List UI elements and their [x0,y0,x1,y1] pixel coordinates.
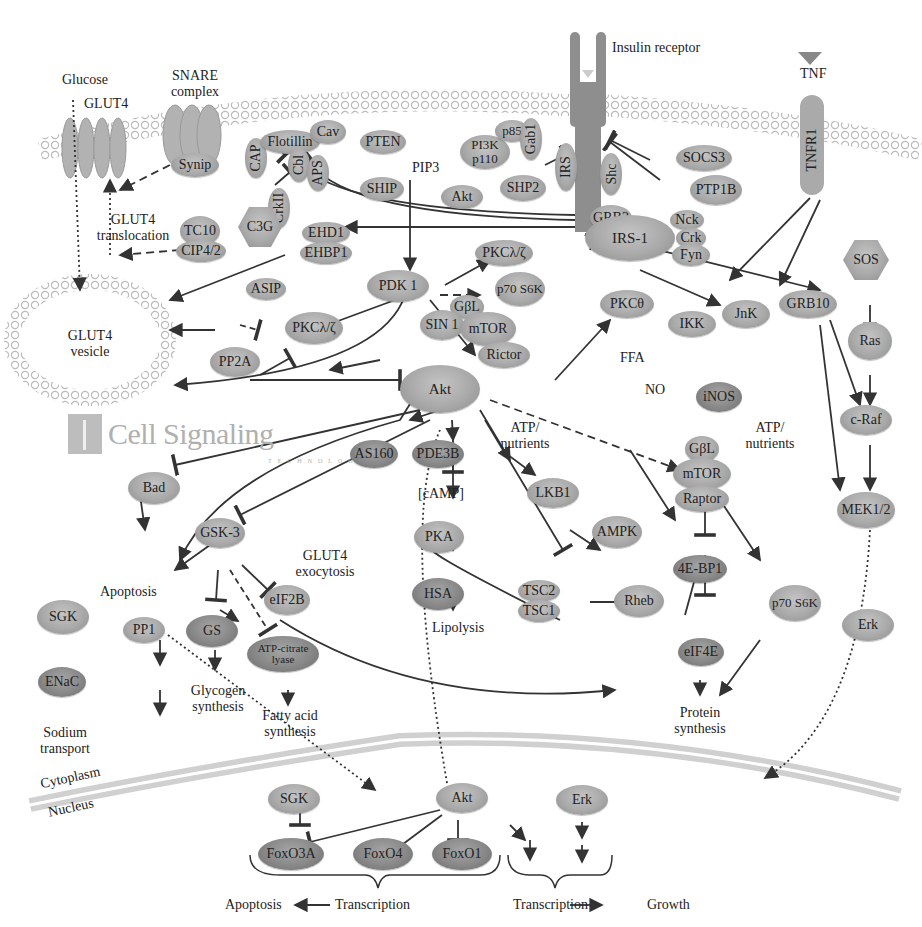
growth-label: Growth [647,897,690,913]
node-cap-text: CAP [249,144,263,171]
pathway-diagram: Cell Signaling TECHNOLOGY Glucose GLUT4 … [0,0,922,927]
node-bad[interactable]: Bad [128,472,180,504]
node-pp2a[interactable]: PP2A [210,347,260,377]
tnf-label: TNF [800,66,826,82]
node-pkclz-top[interactable]: PKCλ/ζ [475,240,533,266]
insulin-receptor-label: Insulin receptor [612,40,700,56]
node-irs1[interactable]: IRS-1 [585,215,675,261]
node-mtor-top[interactable]: mTOR [460,312,516,346]
node-pdk1[interactable]: PDK 1 [367,270,429,302]
node-akt[interactable]: Akt [400,365,480,413]
node-p70s6k-top[interactable]: p70 S6K [495,272,545,306]
node-aps-text: APS [311,160,325,186]
cell-signaling-logo: Cell Signaling TECHNOLOGY [68,414,274,454]
node-akt-top[interactable]: Akt [441,185,483,209]
node-atpcl[interactable]: ATP-citrate lyase [247,636,319,672]
node-craf[interactable]: c-Raf [840,405,892,435]
node-as160[interactable]: AS160 [350,440,398,468]
node-ikk[interactable]: IKK [668,311,716,337]
node-tnfr1[interactable]: TNFR1 [800,110,824,190]
node-gsk3[interactable]: GSK-3 [195,518,245,548]
sodium-transport-label: Sodium transport [30,725,100,757]
node-eif4e[interactable]: eIF4E [678,638,724,666]
node-pka[interactable]: PKA [414,521,464,553]
fatty-acid-synthesis-label: Fatty acid synthesis [255,708,325,740]
node-pp1[interactable]: PP1 [123,617,165,643]
protein-synthesis-label: Protein synthesis [665,705,735,737]
node-tsc2[interactable]: TSC2 [518,580,560,602]
insulin-receptor-shape [570,32,606,232]
lipolysis-label: Lipolysis [432,620,484,636]
node-jnk[interactable]: JnK [722,300,770,328]
apoptosis-label-1: Apoptosis [100,584,157,600]
node-gab1[interactable]: Gab1 [520,118,542,160]
node-sgk-nuclear[interactable]: SGK [268,784,320,814]
node-aps[interactable]: APS [307,155,329,191]
apoptosis-label-2: Apoptosis [225,897,282,913]
node-lkb1[interactable]: LKB1 [527,478,579,508]
node-foxo3a[interactable]: FoxO3A [258,838,324,870]
node-pkctheta[interactable]: PKCθ [600,290,654,318]
node-grb10[interactable]: GRB10 [779,290,837,318]
node-gs[interactable]: GS [186,615,238,647]
transcription-label-1: Transcription [335,897,410,913]
node-pten[interactable]: PTEN [360,130,406,154]
atp-nutrients-label-1: ATP/ nutrients [490,420,560,452]
glut4-exocytosis-label: GLUT4 exocytosis [290,548,360,580]
node-shc[interactable]: Shc [600,153,622,195]
node-foxo1[interactable]: FoxO1 [432,838,492,870]
ffa-label: FFA [620,350,645,366]
glut4-label: GLUT4 [84,96,128,112]
node-ehd1[interactable]: EHD1 [302,222,350,244]
node-cip4[interactable]: CIP4/2 [176,240,226,262]
node-eif2b[interactable]: eIF2B [264,585,310,615]
node-socs3[interactable]: SOCS3 [676,145,732,171]
node-ship[interactable]: SHIP [360,177,404,201]
node-ras[interactable]: Ras [848,322,892,360]
node-akt-nuclear[interactable]: Akt [436,783,488,813]
node-pkclz-left[interactable]: PKCλ/ζ [285,312,343,344]
logo-name: Cell Signaling [108,417,274,451]
node-pde3b[interactable]: PDE3B [412,440,464,468]
node-rictor[interactable]: Rictor [478,342,530,368]
node-ptp1b[interactable]: PTP1B [690,175,742,205]
node-gab1-text: Gab1 [524,124,538,154]
glut4-vesicle-label: GLUT4 vesicle [60,328,120,360]
node-synip[interactable]: Synip [171,153,219,177]
node-mek[interactable]: MEK1/2 [837,492,895,528]
node-shc-text: Shc [604,164,618,185]
node-rheb[interactable]: Rheb [614,585,664,617]
node-p70s6k[interactable]: p70 S6K [769,585,821,621]
node-fyn[interactable]: Fyn [672,244,710,266]
pip3-label: PIP3 [412,160,439,176]
node-asip[interactable]: ASIP [246,278,286,300]
transcription-label-2: Transcription [513,897,588,913]
node-irs[interactable]: IRS [555,143,577,191]
node-foxo4[interactable]: FoxO4 [353,838,413,870]
snare-label: SNARE complex [160,68,230,100]
node-irs-text: IRS [559,156,573,178]
node-ampk[interactable]: AMPK [592,516,642,548]
glucose-label: Glucose [62,72,108,88]
node-hsa[interactable]: HSA [412,578,464,610]
node-cbl-text: Cbl [292,155,306,175]
node-ehbp1[interactable]: EHBP1 [300,242,352,264]
tree-logo-icon [68,414,102,454]
node-tsc1[interactable]: TSC1 [518,600,560,622]
glycogen-synthesis-label: Glycogen synthesis [180,683,256,715]
node-enac[interactable]: ENaC [38,667,86,697]
camp-label: [cAMP] [418,486,464,502]
no-label: NO [645,382,665,398]
node-raptor[interactable]: Raptor [675,486,729,512]
node-erk-nuclear[interactable]: Erk [556,785,608,815]
node-cav[interactable]: Cav [310,120,346,144]
node-4ebp1[interactable]: 4E-BP1 [673,555,727,583]
node-sgk[interactable]: SGK [37,600,89,634]
node-tnfr1-text: TNFR1 [805,129,819,172]
node-inos[interactable]: iNOS [696,382,742,412]
node-shp2[interactable]: SHP2 [500,175,546,201]
node-nck[interactable]: Nck [670,210,704,230]
node-sin1[interactable]: SIN 1 [420,310,464,340]
node-erk[interactable]: Erk [842,609,894,641]
glut4-translocation-label: GLUT4 translocation [88,212,178,244]
